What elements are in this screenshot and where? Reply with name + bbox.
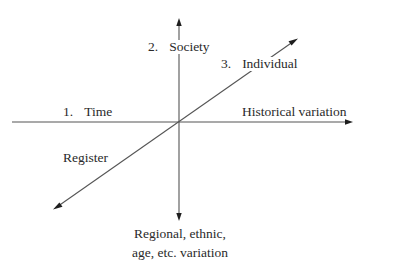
individual-axis-name: Individual [242,56,298,71]
time-axis-name: Time [84,104,112,119]
social-variation-label: Regional, ethnic, age, etc. variation [120,224,240,262]
society-axis-arrow-up-icon [176,18,181,26]
individual-axis-number: 3. [221,57,231,71]
society-axis-number: 2. [148,40,158,54]
time-axis-arrow-right-icon [345,119,353,124]
society-axis-arrow-down-icon [176,213,181,221]
time-axis-number: 1. [63,105,73,119]
society-axis-name: Society [169,39,210,54]
social-variation-label-line-1: Regional, ethnic, [120,224,240,243]
time-axis-label: 1.Time [63,105,112,119]
society-axis-label: 2.Society [148,40,210,54]
historical-variation-label: Historical variation [242,105,347,119]
individual-axis-label: 3.Individual [219,57,300,71]
social-variation-label-line-2: age, etc. variation [120,243,240,262]
register-label: Register [63,151,108,165]
